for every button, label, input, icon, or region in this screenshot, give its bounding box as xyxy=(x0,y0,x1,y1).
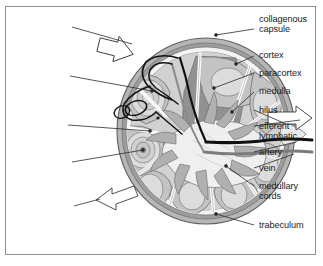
label-line: cords xyxy=(259,191,298,201)
label-line: efferent xyxy=(259,121,297,131)
label-cortex: cortex xyxy=(259,50,283,60)
label-line: trabeculum xyxy=(259,220,303,230)
label-line: capsule xyxy=(259,24,307,34)
label-line: medulla xyxy=(259,86,290,96)
label-line: hilus xyxy=(259,105,277,115)
label-line: medullary xyxy=(259,181,298,191)
label-trabeculum: trabeculum xyxy=(259,220,303,230)
label-artery: artery xyxy=(259,147,282,157)
label-line: lymphatic xyxy=(259,131,297,141)
label-medullary-cords: medullary cords xyxy=(259,181,298,202)
figure-canvas: subcapsular (marginal) sinus high endoth… xyxy=(0,0,323,266)
label-vein: vein xyxy=(259,163,275,173)
label-medulla: medulla xyxy=(259,86,290,96)
label-hilus: hilus xyxy=(259,105,277,115)
label-line: vein xyxy=(259,163,275,173)
label-line: collagenous xyxy=(259,14,307,24)
label-paracortex: paracortex xyxy=(259,68,301,78)
label-line: paracortex xyxy=(259,68,301,78)
label-line: artery xyxy=(259,147,282,157)
label-efferent-lymphatic: efferent lymphatic xyxy=(259,121,297,142)
label-line: cortex xyxy=(259,50,283,60)
label-collagenous-capsule: collagenous capsule xyxy=(259,14,307,35)
